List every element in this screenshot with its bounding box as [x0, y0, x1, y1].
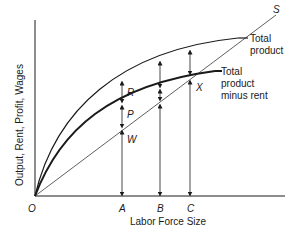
total-product-label: product [250, 45, 284, 56]
total-product-curve [35, 38, 238, 196]
s-line [35, 15, 276, 196]
s-line-label: S [273, 4, 280, 15]
point-c-label: C [187, 203, 195, 214]
point-b-label: B [157, 203, 164, 214]
total-product-minus-rent-curve [35, 71, 215, 196]
tpmr-label: Total [221, 66, 242, 77]
tpmr-label: product [221, 78, 255, 89]
y-axis-title: Output, Rent, Profit, Wages [14, 64, 25, 186]
tpmr-label: minus rent [221, 90, 268, 101]
total-product-label: Total [250, 33, 271, 44]
wages-label: W [127, 134, 138, 145]
intersection-label: X [195, 82, 203, 93]
origin-label: O [28, 203, 36, 214]
rent-label: R [127, 87, 134, 98]
profit-label: P [127, 109, 134, 120]
x-axis-title: Labor Force Size [130, 216, 207, 227]
point-a-label: A [118, 203, 126, 214]
labor-diagram: S Total product Total product minus rent… [0, 0, 297, 239]
